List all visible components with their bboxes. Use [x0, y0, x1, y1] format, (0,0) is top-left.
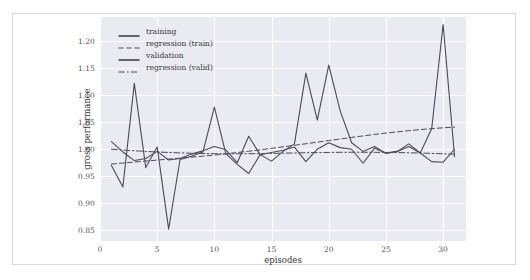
series-line-regression-train: [111, 127, 454, 164]
y-tick-label: 0.95: [78, 172, 95, 181]
x-tick-label: 20: [324, 245, 334, 254]
x-tick-label: 0: [98, 245, 103, 254]
legend-label: validation: [146, 51, 184, 60]
y-tick-label: 0.90: [78, 199, 95, 208]
legend-swatch-dashdot-icon: [118, 62, 140, 72]
legend-swatch-solid-icon: [118, 50, 140, 60]
figure-canvas: 0.850.900.951.001.051.101.151.20 0510152…: [12, 13, 516, 265]
y-tick-label: 1.20: [78, 37, 95, 46]
legend-label: training: [146, 27, 176, 36]
y-axis-label: gross performance: [82, 88, 92, 169]
x-axis-label: episodes: [264, 255, 302, 265]
plot-area: 0.850.900.951.001.051.101.151.20 0510152…: [100, 17, 466, 241]
legend-item[interactable]: regression (train): [118, 37, 213, 49]
legend-swatch-solid-icon: [118, 26, 140, 36]
x-tick-label: 5: [155, 245, 160, 254]
legend-label: regression (train): [146, 39, 213, 48]
x-tick-label: 15: [267, 245, 277, 254]
y-tick-label: 1.15: [78, 64, 95, 73]
legend-item[interactable]: regression (valid): [118, 61, 213, 73]
legend-item[interactable]: training: [118, 25, 213, 37]
legend-item[interactable]: validation: [118, 49, 213, 61]
legend-label: regression (valid): [146, 63, 213, 72]
chart-legend: trainingregression (train)validationregr…: [114, 23, 217, 75]
legend-swatch-dashed-icon: [118, 38, 140, 48]
x-tick-label: 25: [381, 245, 391, 254]
x-tick-label: 30: [438, 245, 448, 254]
x-tick-label: 10: [210, 245, 220, 254]
y-tick-label: 0.85: [78, 226, 95, 235]
